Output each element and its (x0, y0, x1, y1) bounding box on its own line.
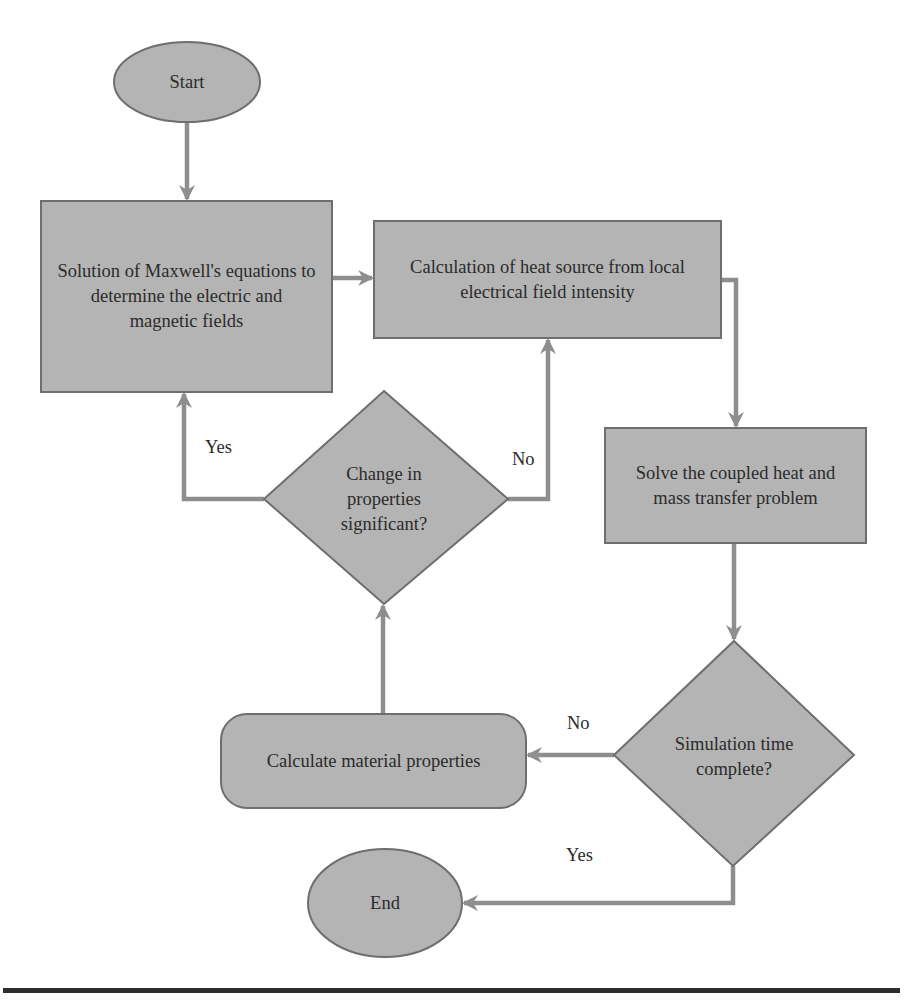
connector-sim-yes-to-end (464, 866, 733, 903)
sim-yes-label: Yes (566, 846, 593, 865)
maxwell-node (41, 201, 332, 392)
start-node (114, 42, 260, 122)
connector-change-no-to-heat-source (508, 340, 548, 499)
change-yes-label: Yes (205, 438, 232, 457)
flowchart-canvas (0, 0, 904, 1000)
end-node (308, 849, 462, 957)
connector-heat-source-to-solve (721, 280, 736, 426)
calc-material-node (221, 714, 526, 808)
solve-coupled-node (605, 428, 866, 543)
change-no-label: No (512, 450, 535, 469)
heat-source-node (374, 221, 721, 338)
sim-no-label: No (567, 714, 590, 733)
change-decision-node (264, 391, 508, 604)
sim-decision-node (614, 641, 854, 866)
bottom-rule (3, 988, 900, 993)
